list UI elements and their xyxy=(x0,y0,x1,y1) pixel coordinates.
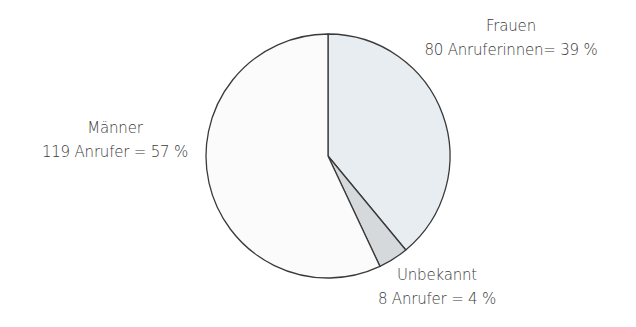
label-unbekannt-title: Unbekannt xyxy=(362,263,512,287)
label-maenner-detail: 119 Anrufer = 57 % xyxy=(20,140,210,164)
label-unbekannt: Unbekannt 8 Anrufer = 4 % xyxy=(362,263,512,311)
label-unbekannt-detail: 8 Anrufer = 4 % xyxy=(362,287,512,311)
label-frauen: Frauen 80 Anruferinnen= 39 % xyxy=(406,14,616,62)
label-frauen-title: Frauen xyxy=(406,14,616,38)
label-frauen-detail: 80 Anruferinnen= 39 % xyxy=(406,38,616,62)
label-maenner-title: Männer xyxy=(20,116,210,140)
pie-chart: Frauen 80 Anruferinnen= 39 % Männer 119 … xyxy=(0,0,636,327)
label-maenner: Männer 119 Anrufer = 57 % xyxy=(20,116,210,164)
